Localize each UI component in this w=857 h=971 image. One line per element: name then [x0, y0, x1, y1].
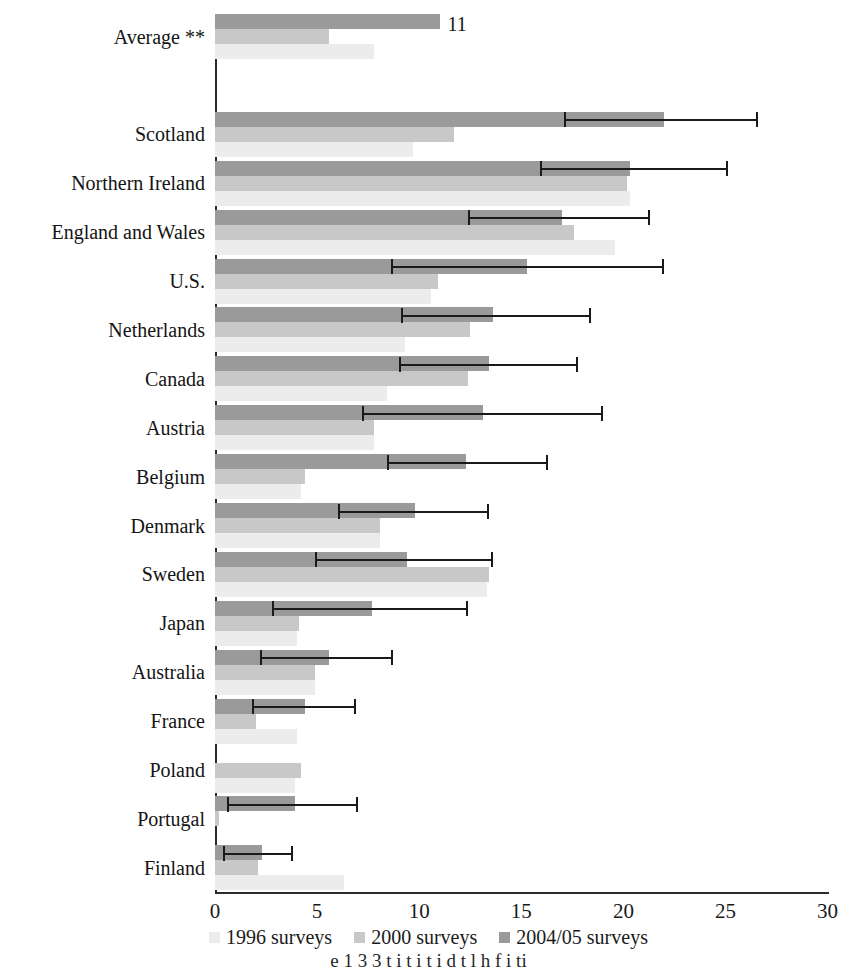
error-bar-cap-upper [648, 210, 650, 225]
bar-2000-surveys [215, 274, 438, 289]
category-label: U.S. [5, 271, 205, 291]
bar-group [215, 307, 827, 352]
category-label: Portugal [5, 809, 205, 829]
error-bar-cap-upper [662, 259, 664, 274]
error-bar-cap-lower [272, 601, 274, 616]
bar-group [215, 161, 827, 206]
error-bar-cap-lower [362, 406, 364, 421]
error-bar-cap-lower [391, 259, 393, 274]
bar-2000-surveys [215, 616, 299, 631]
bar-2000-surveys [215, 518, 380, 533]
category-label: Finland [5, 858, 205, 878]
category-label: Austria [5, 418, 205, 438]
bar-1996-surveys [215, 289, 431, 304]
x-tick-label: 30 [817, 898, 838, 924]
bar-value-label: 11 [448, 14, 467, 34]
category-labels: Average **ScotlandNorthern IrelandEnglan… [0, 0, 205, 894]
bar-group [215, 552, 827, 597]
x-tick-label: 5 [312, 898, 323, 924]
figure-caption: e 1 3 3 t i t i t i d t l h f i ti [0, 950, 857, 971]
bar-2000-surveys [215, 29, 329, 44]
category-label: Northern Ireland [5, 173, 205, 193]
bar-1996-surveys [215, 875, 344, 890]
bar-1996-surveys [215, 680, 315, 695]
bar-group [215, 601, 827, 646]
category-label: Denmark [5, 516, 205, 536]
bar-2000-surveys [215, 763, 301, 778]
bar-group [215, 63, 827, 108]
category-label: France [5, 711, 205, 731]
bar-2000-surveys [215, 860, 258, 875]
error-bar-cap-upper [756, 112, 758, 127]
bar-1996-surveys [215, 142, 413, 157]
bar-2004-05-surveys [215, 14, 440, 29]
error-bar-line [252, 706, 356, 708]
legend-label: 1996 surveys [226, 926, 332, 949]
error-bar-line [338, 511, 489, 513]
legend-label: 2004/05 surveys [516, 926, 648, 949]
x-tick-label: 25 [715, 898, 736, 924]
error-bar-cap-lower [260, 650, 262, 665]
bar-group [215, 210, 827, 255]
error-bar-cap-lower [540, 161, 542, 176]
error-bar-cap-lower [468, 210, 470, 225]
bar-2000-surveys [215, 811, 219, 826]
bar-group [215, 259, 827, 304]
error-bar-cap-upper [601, 406, 603, 421]
error-bar-cap-lower [387, 455, 389, 470]
category-label: Sweden [5, 564, 205, 584]
bar-2000-surveys [215, 567, 489, 582]
error-bar-cap-lower [399, 357, 401, 372]
bar-1996-surveys [215, 191, 630, 206]
bar-group [215, 796, 827, 841]
bar-2000-surveys [215, 127, 454, 142]
error-bar-cap-upper [391, 650, 393, 665]
error-bar-cap-lower [401, 308, 403, 323]
error-bar-cap-upper [589, 308, 591, 323]
bar-2000-surveys [215, 665, 315, 680]
category-label: Scotland [5, 124, 205, 144]
bar-group [215, 112, 827, 157]
error-bar-line [540, 168, 728, 170]
bar-1996-surveys [215, 44, 374, 59]
error-bar-line [399, 364, 579, 366]
bar-group: 11 [215, 14, 827, 59]
bar-2000-surveys [215, 225, 574, 240]
bar-group [215, 699, 827, 744]
x-axis-tick-labels: 051015202530 [0, 898, 857, 924]
plot-area: 11 [215, 14, 827, 894]
bar-group [215, 405, 827, 450]
bar-1996-surveys [215, 435, 374, 450]
legend-item: 1996 surveys [209, 926, 332, 949]
error-bar-cap-lower [227, 797, 229, 812]
bar-group [215, 650, 827, 695]
error-bar-cap-lower [338, 504, 340, 519]
error-bar-line [564, 119, 758, 121]
bar-2000-surveys [215, 714, 256, 729]
error-bar-line [468, 217, 650, 219]
bar-chart: Average **ScotlandNorthern IrelandEnglan… [0, 0, 857, 971]
x-tick-label: 15 [511, 898, 532, 924]
category-label: Japan [5, 613, 205, 633]
error-bar-line [272, 608, 468, 610]
bar-group [215, 503, 827, 548]
bar-2000-surveys [215, 469, 305, 484]
error-bar-cap-upper [466, 601, 468, 616]
legend-item: 2000 surveys [354, 926, 477, 949]
error-bar-line [401, 315, 591, 317]
bar-1996-surveys [215, 533, 380, 548]
error-bar-cap-upper [354, 699, 356, 714]
error-bar-cap-upper [491, 552, 493, 567]
bar-1996-surveys [215, 386, 387, 401]
bar-group [215, 748, 827, 793]
legend-swatch-icon [354, 932, 365, 943]
legend-swatch-icon [209, 932, 220, 943]
error-bar-cap-upper [576, 357, 578, 372]
error-bar-cap-lower [223, 846, 225, 861]
legend-label: 2000 surveys [371, 926, 477, 949]
category-label: Canada [5, 369, 205, 389]
bar-2000-surveys [215, 420, 374, 435]
error-bar-cap-upper [546, 455, 548, 470]
bar-1996-surveys [215, 778, 295, 793]
error-bar-line [387, 462, 548, 464]
